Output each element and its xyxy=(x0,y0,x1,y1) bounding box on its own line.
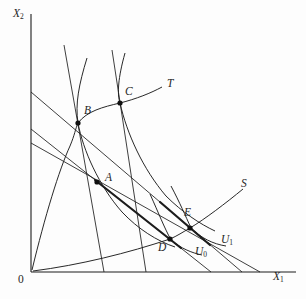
point-D-dot xyxy=(167,236,172,241)
point-D-label: D xyxy=(158,242,166,254)
point-B-label: B xyxy=(84,105,91,117)
figure-canvas xyxy=(0,0,306,299)
budget-line-low xyxy=(31,143,260,272)
origin-label: 0 xyxy=(18,274,24,286)
curve-S-label: S xyxy=(241,178,247,191)
point-A-label: A xyxy=(105,172,112,184)
x-axis-label: X1 xyxy=(273,271,284,284)
point-A-dot xyxy=(94,179,99,184)
y-axis-label: X2 xyxy=(13,8,24,21)
tangent-line-B xyxy=(64,45,104,272)
point-E-label: E xyxy=(184,207,191,219)
point-E-dot xyxy=(187,225,192,230)
curve-T-label: T xyxy=(167,78,173,91)
curve-U1-label: U1 xyxy=(221,234,233,247)
point-C-dot xyxy=(117,100,122,105)
indifference-curve-figure: X2 X1 0 A B C D E T S U0 U1 xyxy=(0,0,306,299)
tangent-line-C xyxy=(112,50,146,272)
point-C-label: C xyxy=(125,86,133,98)
point-B-dot xyxy=(75,120,80,125)
curve-S xyxy=(33,189,243,271)
curve-U0-label: U0 xyxy=(195,246,207,259)
curve-T xyxy=(32,87,162,270)
